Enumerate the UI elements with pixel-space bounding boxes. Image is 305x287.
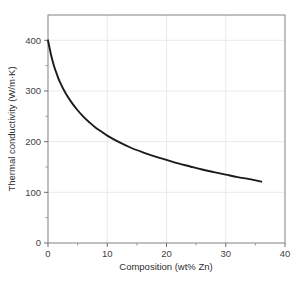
x-tick-label: 30 [220, 248, 231, 259]
y-tick-label: 400 [25, 35, 41, 46]
x-tick-label: 20 [161, 248, 172, 259]
chart-figure: 010203040 0100200300400 Composition (wt%… [0, 0, 305, 287]
y-tick-label: 300 [25, 85, 41, 96]
y-tick-label: 0 [36, 237, 41, 248]
y-tick-label: 200 [25, 136, 41, 147]
y-tick-label: 100 [25, 187, 41, 198]
x-tick-label: 40 [280, 248, 291, 259]
x-tick-label: 0 [45, 248, 50, 259]
thermal-conductivity-line-chart: 010203040 0100200300400 Composition (wt%… [0, 0, 305, 287]
x-axis-title: Composition (wt% Zn) [119, 261, 212, 272]
chart-background [0, 0, 305, 287]
x-tick-label: 10 [102, 248, 113, 259]
y-axis-title: Thermal conductivity (W/m·K) [6, 66, 17, 191]
